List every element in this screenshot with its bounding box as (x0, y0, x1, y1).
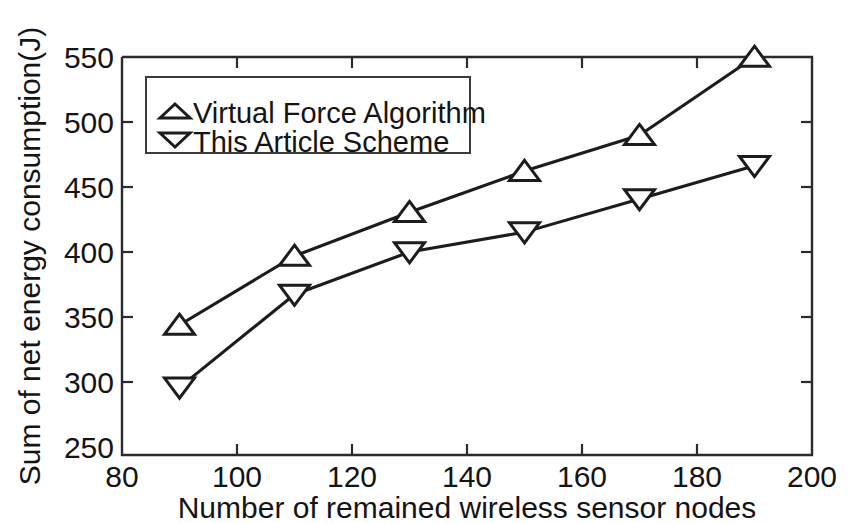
y-tick-label-500: 500 (64, 106, 114, 139)
chart-svg: 550 500 450 400 350 300 250 80 100 120 1… (0, 0, 868, 523)
y-tick-label-400: 400 (64, 236, 114, 269)
x-axis-title: Number of remained wireless sensor nodes (178, 491, 757, 523)
x-tick-label-140: 140 (442, 460, 492, 493)
legend-entry-this-article: This Article Scheme (160, 126, 449, 158)
y-tick-label-550: 550 (64, 41, 114, 74)
legend-label-this-article: This Article Scheme (193, 126, 449, 158)
x-tick-label-160: 160 (557, 460, 607, 493)
x-tick-label-180: 180 (672, 460, 722, 493)
chart-figure: 550 500 450 400 350 300 250 80 100 120 1… (0, 0, 868, 523)
legend: Virtual Force Algorithm This Article Sch… (146, 77, 486, 158)
legend-entry-virtual-force: Virtual Force Algorithm (160, 97, 486, 129)
x-tick-label-80: 80 (105, 460, 138, 493)
x-tick-label-200: 200 (787, 460, 837, 493)
legend-label-virtual-force: Virtual Force Algorithm (193, 97, 486, 129)
y-tick-label-450: 450 (64, 171, 114, 204)
y-tick-label-350: 350 (64, 301, 114, 334)
x-tick-label-120: 120 (327, 460, 377, 493)
y-tick-label-300: 300 (64, 366, 114, 399)
y-axis-title: Sum of net energy consumption(J) (13, 27, 46, 486)
x-tick-label-100: 100 (212, 460, 262, 493)
